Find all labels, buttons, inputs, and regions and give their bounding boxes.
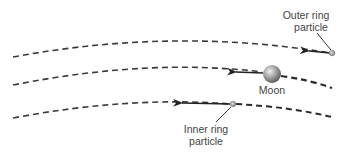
ring-moon-diagram: Outer ring particle Moon Inner ring part…	[0, 0, 349, 155]
moon-orbit-right	[281, 76, 332, 88]
outer-label-leader	[317, 33, 331, 50]
moon-orbit-left	[13, 67, 262, 85]
inner-ring-label-line2: particle	[189, 135, 223, 147]
moon-label: Moon	[259, 84, 285, 96]
outer-ring-label-line1: Outer ring	[283, 9, 330, 21]
outer-ring-label-line2: particle	[294, 21, 328, 33]
inner-orbit-right	[236, 104, 332, 117]
moon	[263, 65, 281, 83]
moon-velocity-arrow	[236, 72, 263, 73]
outer-ring-particle	[329, 50, 335, 56]
inner-ring-label-line1: Inner ring	[184, 123, 229, 135]
inner-label-leader	[216, 107, 231, 122]
inner-orbit-left	[13, 102, 230, 118]
inner-ring-particle	[230, 101, 236, 107]
outer-orbit	[13, 41, 330, 57]
